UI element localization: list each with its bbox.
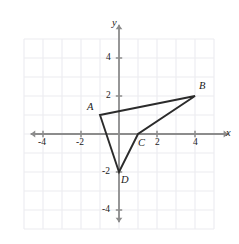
plot-canvas [0, 0, 239, 244]
y-axis-label: y [112, 18, 117, 29]
vertex-label-c: C [138, 138, 145, 149]
x-axis-arrow-left [31, 131, 36, 138]
x-tick-label-4: 4 [193, 138, 198, 148]
y-tick-label--4: -4 [102, 205, 110, 215]
y-tick-label--2: -2 [102, 167, 110, 177]
axes-group [31, 25, 229, 223]
x-tick-label--4: -4 [38, 138, 46, 148]
vertex-label-a: A [87, 102, 93, 113]
coordinate-plane-figure: -4 -2 2 4 4 2 -2 -4 x y A B C D [0, 0, 239, 244]
x-tick-label--2: -2 [76, 138, 84, 148]
y-tick-label-2: 2 [106, 91, 111, 101]
y-tick-label-4: 4 [106, 53, 111, 63]
vertex-label-b: B [199, 81, 205, 92]
x-tick-label-2: 2 [155, 138, 160, 148]
vertex-label-d: D [121, 175, 129, 186]
y-axis-arrow-down [116, 218, 123, 223]
x-axis-label: x [226, 128, 231, 139]
